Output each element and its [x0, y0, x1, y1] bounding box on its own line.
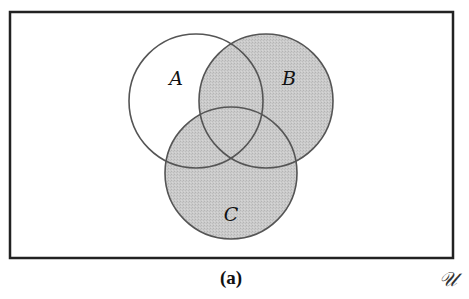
- set-label-a: A: [167, 67, 183, 89]
- universe-label: 𝒰: [439, 267, 463, 291]
- venn-diagram: ABC (a) 𝒰: [0, 0, 469, 299]
- set-label-c: C: [224, 203, 239, 225]
- shaded-region-b-union-c: [165, 34, 333, 239]
- caption: (a): [220, 267, 242, 289]
- set-label-b: B: [281, 67, 296, 89]
